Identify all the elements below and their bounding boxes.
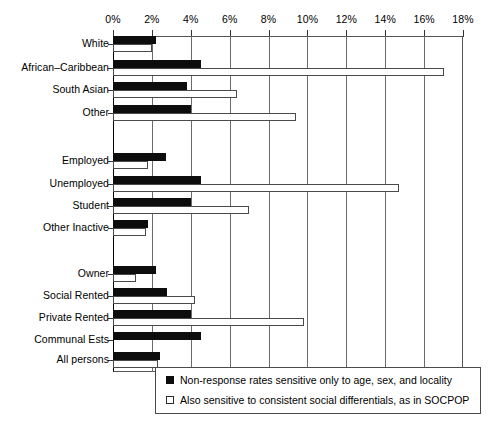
y-axis-label-text: African–Caribbean (1, 61, 109, 73)
bar-series-dark (113, 36, 156, 44)
bar-series-dark (113, 82, 187, 90)
bar-series-dark (113, 288, 167, 296)
y-axis-label-text: All persons (1, 353, 109, 365)
bar-series-dark (113, 332, 201, 340)
x-axis-tick-label: 12% (336, 13, 357, 25)
bar-series-dark (113, 60, 201, 68)
x-axis-tick-label: 0% (105, 13, 120, 25)
y-axis-label-text: South Asian (1, 83, 109, 95)
y-axis-label-text: Student (1, 199, 109, 211)
legend-swatch-dark-icon (166, 376, 174, 384)
bar-series-light (113, 113, 296, 121)
bar-series-light (113, 161, 148, 169)
bar-series-light (113, 206, 249, 214)
bar-series-light (113, 296, 195, 304)
x-axis-tick-label: 8% (261, 13, 276, 25)
legend-item-dark: Non-response rates sensitive only to age… (166, 374, 452, 386)
bar-series-light (113, 318, 304, 326)
bar-series-light (113, 44, 152, 52)
y-axis-label-text: Other (1, 106, 109, 118)
x-axis-tick-label: 18% (452, 13, 473, 25)
y-axis-label-text: Private Rented (1, 311, 109, 323)
x-axis-tick-label: 16% (413, 13, 434, 25)
x-axis-tick-label: 10% (297, 13, 318, 25)
bar-series-dark (113, 266, 156, 274)
legend-label-dark: Non-response rates sensitive only to age… (180, 374, 452, 386)
x-axis-tick-label: 6% (222, 13, 237, 25)
y-axis-label-text: Other Inactive (1, 221, 109, 233)
y-axis-label-text: White (1, 37, 109, 49)
y-axis-label-text: Social Rented (1, 289, 109, 301)
bar-series-light (113, 68, 444, 76)
bar-series-dark (113, 220, 148, 228)
bar-series-dark (113, 310, 191, 318)
bar-series-dark (113, 105, 191, 113)
bar-series-light (113, 90, 237, 98)
y-axis-label-text: Employed (1, 154, 109, 166)
gridline (424, 36, 425, 372)
x-axis-tick-label: 2% (144, 13, 159, 25)
legend-item-light: Also sensitive to consistent social diff… (166, 394, 469, 406)
y-axis-label-text: Owner (1, 267, 109, 279)
bar-chart: 0%2%4%6%8%10%12%14%16%18% WhiteAfrican–C… (0, 0, 496, 441)
gridline (385, 36, 386, 372)
gridline (307, 36, 308, 372)
y-axis-label-text: Communal Ests (1, 333, 109, 345)
x-axis-tick-label: 4% (183, 13, 198, 25)
chart-legend: Non-response rates sensitive only to age… (155, 367, 481, 414)
x-axis-tick-label: 14% (375, 13, 396, 25)
bar-series-dark (113, 153, 166, 161)
bar-series-light (113, 360, 158, 368)
x-axis-tick-mark (463, 30, 464, 37)
bar-series-light (113, 184, 399, 192)
bar-series-dark (113, 198, 191, 206)
bar-series-light (113, 228, 146, 236)
y-axis-label-text: Unemployed (1, 177, 109, 189)
legend-label-light: Also sensitive to consistent social diff… (180, 394, 469, 406)
bar-series-dark (113, 352, 160, 360)
bar-series-dark (113, 176, 201, 184)
bar-series-light (113, 274, 136, 282)
legend-swatch-light-icon (166, 396, 174, 404)
gridline (346, 36, 347, 372)
